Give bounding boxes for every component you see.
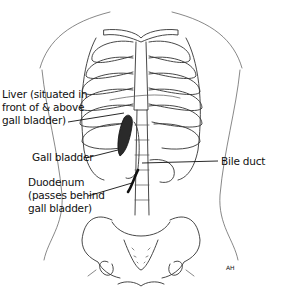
label-liver: Liver (situated in front of & above gall… xyxy=(2,88,87,127)
sternum-and-spine xyxy=(134,42,149,215)
body-outline xyxy=(40,12,242,260)
pelvis xyxy=(82,217,200,286)
artist-signature: AH xyxy=(226,264,234,271)
torso-skeleton-drawing xyxy=(0,0,282,292)
anatomy-diagram: Liver (situated in front of & above gall… xyxy=(0,0,282,292)
label-bile-duct: Bile duct xyxy=(221,155,265,168)
organs xyxy=(110,95,180,192)
label-duodenum: Duodenum (passes behind gall bladder) xyxy=(28,176,105,215)
ribs-right xyxy=(149,38,202,180)
duodenum-shape xyxy=(128,170,138,192)
gall-bladder-shape xyxy=(118,115,132,156)
bile-duct-leader xyxy=(142,161,218,163)
label-gall-bladder: Gall bladder xyxy=(32,151,93,164)
clavicles xyxy=(104,29,178,42)
